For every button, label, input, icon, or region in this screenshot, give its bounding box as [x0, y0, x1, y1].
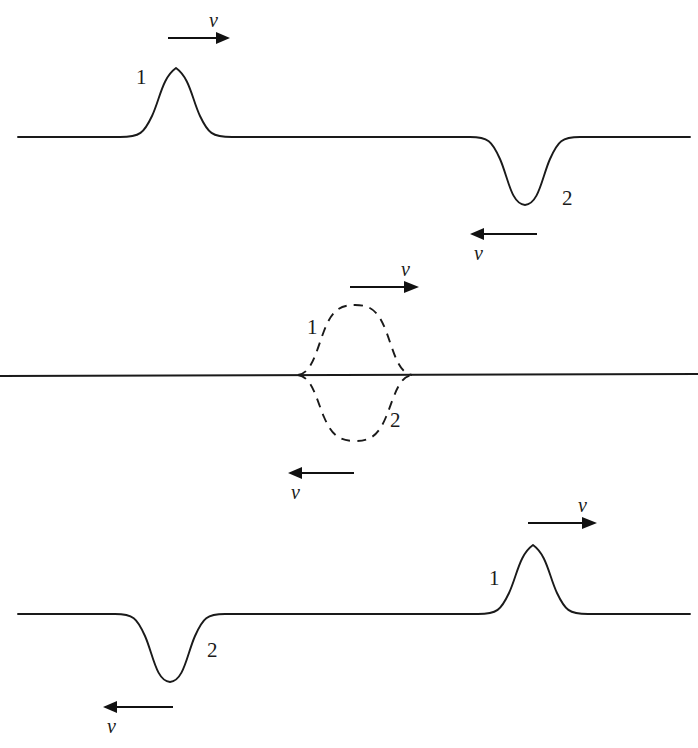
string-middle-panel-flat: [0, 374, 698, 376]
velocity-arrow-middle-right: [350, 281, 419, 293]
pulse-label-2-middle: 2: [390, 410, 401, 431]
pulse-label-2-top: 2: [562, 188, 573, 209]
wave-superposition-figure: 1 2 v v 1 2 v v 2 1 v v: [0, 0, 698, 748]
velocity-arrow-middle-left: [288, 467, 354, 479]
velocity-label-bottom-left: v: [107, 716, 116, 736]
velocity-label-middle-right: v: [401, 259, 410, 279]
string-top-panel: [18, 68, 690, 205]
pulse-label-2-bottom: 2: [207, 640, 218, 661]
velocity-label-top-right: v: [209, 10, 218, 30]
wave-diagram-canvas: [0, 0, 698, 748]
pulse-label-1-middle: 1: [307, 317, 318, 338]
string-bottom-panel: [18, 545, 690, 682]
velocity-label-top-left: v: [474, 243, 483, 263]
velocity-arrow-bottom-left: [103, 701, 173, 713]
pulse-label-1-top: 1: [136, 67, 147, 88]
velocity-label-bottom-right: v: [578, 495, 587, 515]
pulse-label-1-bottom: 1: [489, 568, 500, 589]
panel-middle: [0, 281, 698, 479]
velocity-label-middle-left: v: [291, 482, 300, 502]
velocity-arrow-top-left: [470, 228, 537, 240]
velocity-arrow-top-right: [168, 32, 230, 44]
panel-bottom: [18, 517, 690, 713]
velocity-arrow-bottom-right: [528, 517, 597, 529]
panel-top: [18, 32, 690, 240]
